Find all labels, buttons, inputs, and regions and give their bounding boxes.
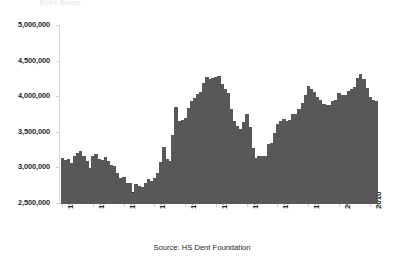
x-axis-tick (247, 204, 248, 207)
chart-figure: Echo Boom 5,000,0004,500,0004,000,0003,5… (0, 0, 404, 266)
x-axis-tick (124, 204, 125, 207)
y-axis-label: 3,000,000 (0, 163, 50, 171)
y-axis-label: 2,500,000 (0, 199, 50, 207)
bar-series (59, 25, 380, 204)
x-axis-tick (154, 204, 155, 207)
x-axis-tick (185, 204, 186, 207)
x-axis-tick (308, 204, 309, 207)
x-axis-tick (370, 204, 371, 207)
y-axis-label: 4,500,000 (0, 57, 50, 65)
y-axis-label: 5,000,000 (0, 21, 50, 29)
plot-area: 5,000,0004,500,0004,000,0003,500,0003,00… (0, 0, 404, 266)
x-axis-tick (216, 204, 217, 207)
x-axis-tick (93, 204, 94, 207)
bar (374, 101, 377, 204)
x-axis-tick (277, 204, 278, 207)
y-axis-label: 4,000,000 (0, 92, 50, 100)
source-note: Source: HS Dent Foundation (0, 243, 404, 253)
x-axis-tick (62, 204, 63, 207)
y-axis-label: 3,500,000 (0, 128, 50, 136)
x-axis-tick (339, 204, 340, 207)
